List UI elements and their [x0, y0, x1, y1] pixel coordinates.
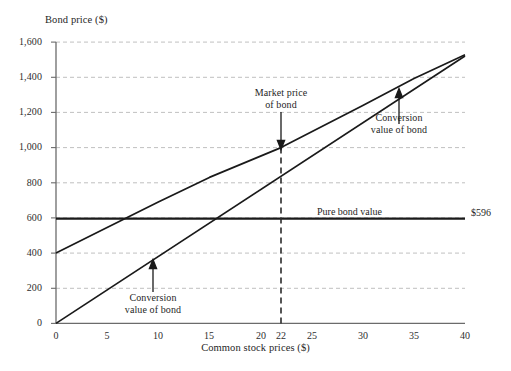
arrow-down-market-price	[277, 112, 284, 150]
annotation-conversion-left-line2: value of bond	[112, 304, 194, 316]
annotation-conversion-value-left: Conversion value of bond	[112, 292, 194, 316]
x-tick-40: 40	[448, 330, 482, 341]
annotation-market-price-line1: Market price	[245, 87, 317, 99]
annotation-conversion-right-line2: value of bond	[358, 124, 440, 136]
x-tick-10: 10	[141, 330, 175, 341]
x-tick-15: 15	[192, 330, 226, 341]
y-tick-200: 200	[2, 282, 42, 293]
y-tick-800: 800	[2, 177, 42, 188]
x-tick-22: 22	[264, 330, 298, 341]
annotation-conversion-left-line1: Conversion	[112, 292, 194, 304]
y-axis-ticks	[51, 42, 56, 323]
y-tick-0: 0	[2, 317, 42, 328]
y-tick-600: 600	[2, 212, 42, 223]
y-tick-1000: 1,000	[2, 141, 42, 152]
x-axis-title: Common stock prices ($)	[0, 342, 511, 353]
annotation-conversion-value-right: Conversion value of bond	[358, 112, 440, 136]
x-tick-0: 0	[39, 330, 73, 341]
y-tick-1200: 1,200	[2, 106, 42, 117]
x-tick-25: 25	[295, 330, 329, 341]
chart-canvas	[0, 0, 511, 371]
x-tick-35: 35	[397, 330, 431, 341]
annotation-market-price-of-bond: Market price of bond	[245, 87, 317, 111]
series-market-price-line	[56, 55, 465, 253]
x-tick-30: 30	[346, 330, 380, 341]
annotation-market-price-line2: of bond	[245, 99, 317, 111]
edge-label-pure-bond-value-amount: $596	[471, 207, 491, 218]
x-tick-5: 5	[90, 330, 124, 341]
y-tick-400: 400	[2, 247, 42, 258]
annotation-pure-bond-value: Pure bond value	[314, 206, 385, 217]
annotation-conversion-right-line1: Conversion	[358, 112, 440, 124]
gridlines-horizontal	[56, 42, 465, 288]
y-tick-1400: 1,400	[2, 71, 42, 82]
arrow-up-conversion-left	[149, 260, 156, 293]
y-axis-title: Bond price ($)	[45, 14, 108, 25]
bond-price-chart: Bond price ($) Common stock prices ($) 1…	[0, 0, 511, 371]
y-tick-1600: 1,600	[2, 36, 42, 47]
